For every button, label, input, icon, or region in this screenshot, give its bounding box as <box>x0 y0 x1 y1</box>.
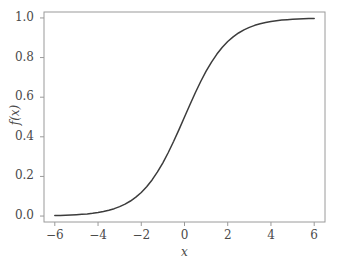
x-tick-label: −2 <box>121 228 161 242</box>
x-tick-label: 4 <box>251 228 291 242</box>
x-axis-ticks <box>55 222 314 226</box>
x-tick-label: −6 <box>35 228 75 242</box>
figure-canvas: 0.00.20.40.60.81.0 −6−4−20246 f(x) x <box>0 0 338 271</box>
x-tick-label: 6 <box>294 228 334 242</box>
y-tick-label: 0.2 <box>0 168 34 182</box>
y-tick-label: 0.0 <box>0 208 34 222</box>
x-tick-label: 2 <box>208 228 248 242</box>
y-axis-title: f(x) <box>8 95 22 135</box>
x-tick-label: 0 <box>165 228 205 242</box>
x-axis-title: x <box>165 245 205 259</box>
y-axis-ticks <box>40 18 44 216</box>
x-tick-label: −4 <box>78 228 118 242</box>
y-tick-label: 0.8 <box>0 50 34 64</box>
y-tick-label: 1.0 <box>0 10 34 24</box>
